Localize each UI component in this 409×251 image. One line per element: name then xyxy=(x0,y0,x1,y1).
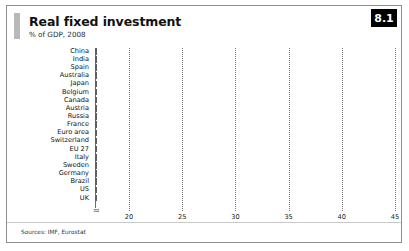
category-label-china: China xyxy=(70,48,89,55)
category-label-france: France xyxy=(67,121,89,128)
category-label-canada: Canada xyxy=(64,97,89,104)
bar-row xyxy=(95,146,144,153)
category-label-india: India xyxy=(73,56,89,63)
category-label-eu-27: EU 27 xyxy=(70,146,89,153)
bar-italy xyxy=(95,154,97,161)
bar-switzerland xyxy=(95,138,97,145)
chart-title: Real fixed investment xyxy=(29,14,181,29)
category-label-brazil: Brazil xyxy=(71,178,89,185)
category-label-belgium: Belgium xyxy=(62,89,89,96)
category-label-switzerland: Switzerland xyxy=(51,137,89,144)
category-axis-labels: ChinaIndiaSpainAustraliaJapanBelgiumCana… xyxy=(7,48,92,208)
bar-row xyxy=(95,138,146,145)
tick-label-30: 30 xyxy=(231,213,239,221)
value-axis-tick-labels: 202530354045 xyxy=(7,213,409,225)
bar-row xyxy=(95,162,124,169)
bar-row xyxy=(95,130,149,137)
tick-label-35: 35 xyxy=(284,213,292,221)
bar-row xyxy=(95,72,224,79)
bar-row xyxy=(95,195,96,202)
bar-brazil xyxy=(95,178,97,185)
bar-row xyxy=(95,56,286,63)
figure-number-badge: 8.1 xyxy=(371,9,397,27)
bar-canada xyxy=(95,97,97,104)
category-label-uk: UK xyxy=(80,195,89,202)
bar-row xyxy=(95,154,142,161)
tick-label-40: 40 xyxy=(338,213,346,221)
plot-area xyxy=(89,48,401,208)
chart-subtitle: % of GDP, 2008 xyxy=(29,30,86,39)
source-divider xyxy=(7,222,401,223)
bar-japan xyxy=(95,81,97,88)
bar-sweden xyxy=(95,162,97,169)
bar-row xyxy=(95,81,168,88)
bar-row xyxy=(95,170,118,177)
bar-uk xyxy=(95,195,97,202)
category-label-italy: Italy xyxy=(75,154,89,161)
bar-russia xyxy=(95,113,97,120)
category-label-russia: Russia xyxy=(68,113,89,120)
bar-belgium xyxy=(95,89,97,96)
figure-panel: Real fixed investment % of GDP, 2008 8.1… xyxy=(6,5,402,243)
gridline-45 xyxy=(395,48,396,211)
tick-label-20: 20 xyxy=(125,213,133,221)
bar-india xyxy=(95,56,97,63)
category-label-germany: Germany xyxy=(59,170,89,177)
bar-eu-27 xyxy=(95,146,97,153)
bar-row xyxy=(95,178,113,185)
bar-row xyxy=(95,64,227,71)
tick-label-45: 45 xyxy=(391,213,399,221)
gridline-30 xyxy=(235,48,236,211)
category-label-euro-area: Euro area xyxy=(57,129,89,136)
bar-us xyxy=(95,187,97,194)
bar-spain xyxy=(95,64,97,71)
bar-france xyxy=(95,121,97,128)
bar-row xyxy=(95,187,110,194)
category-label-us: US xyxy=(80,186,89,193)
bar-row xyxy=(95,121,151,128)
bar-row xyxy=(95,48,365,55)
bar-row xyxy=(95,105,160,112)
title-accent-bar xyxy=(14,13,20,39)
bar-china xyxy=(95,48,97,55)
gridline-35 xyxy=(289,48,290,211)
bar-australia xyxy=(95,72,97,79)
category-label-japan: Japan xyxy=(71,80,89,87)
bar-row xyxy=(95,113,156,120)
category-label-spain: Spain xyxy=(71,64,89,71)
tick-label-25: 25 xyxy=(178,213,186,221)
axis-break-icon: ≈ xyxy=(93,207,100,215)
bar-row xyxy=(95,89,166,96)
source-note: Sources: IMF, Eurostat xyxy=(21,229,86,235)
category-label-austria: Austria xyxy=(66,105,89,112)
gridline-40 xyxy=(342,48,343,211)
bar-germany xyxy=(95,170,97,177)
bar-euro-area xyxy=(95,130,97,137)
category-label-australia: Australia xyxy=(60,72,89,79)
bar-austria xyxy=(95,105,97,112)
bar-row xyxy=(95,97,164,104)
category-label-sweden: Sweden xyxy=(63,162,89,169)
